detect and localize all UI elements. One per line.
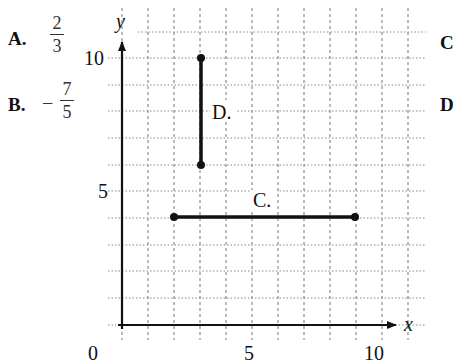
grid-horizontal-lines xyxy=(108,32,426,325)
x-tick-label-10: 10 xyxy=(364,342,384,364)
segment-c-endpoint-right xyxy=(351,213,359,221)
origin-label: 0 xyxy=(88,342,98,364)
coordinate-graph: x y 0 5 10 5 10 D. C. xyxy=(0,0,456,364)
y-axis-label: y xyxy=(114,10,125,33)
segment-c: C. xyxy=(170,189,359,221)
y-tick-label-10: 10 xyxy=(84,47,104,69)
segment-d-endpoint-bottom xyxy=(197,161,205,169)
segment-d-endpoint-top xyxy=(197,54,205,62)
segment-c-label: C. xyxy=(253,189,271,211)
x-tick-label-5: 5 xyxy=(244,342,254,364)
x-axis-label: x xyxy=(403,313,413,335)
segment-d-label: D. xyxy=(212,101,231,123)
y-tick-label-5: 5 xyxy=(98,180,108,202)
segment-c-endpoint-left xyxy=(170,213,178,221)
